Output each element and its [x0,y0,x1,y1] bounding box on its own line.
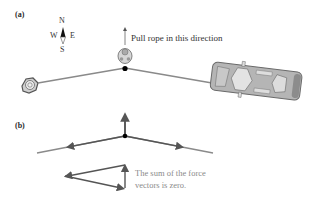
rope-right [125,68,212,83]
car-icon [209,58,303,105]
rope-left [38,68,125,83]
force-triangle [65,165,125,188]
sum-note-line1: The sum of the force [135,168,206,179]
compass-north: N [59,17,65,25]
compass-east: E [70,32,75,40]
person-icon [118,49,132,72]
panel-b-label: (b) [15,122,25,130]
pull-direction-label: Pull rope in this direction [131,34,223,43]
compass-icon [61,27,66,44]
tree-stump-icon [22,78,38,93]
junction-point [123,134,128,139]
vector-right-head [125,136,180,147]
sum-note-line2: vectors is zero. [135,180,186,191]
panel-a-label: (a) [15,11,24,19]
vector-left-head [70,136,125,147]
compass-south: S [60,46,64,54]
compass-west: W [50,32,58,40]
